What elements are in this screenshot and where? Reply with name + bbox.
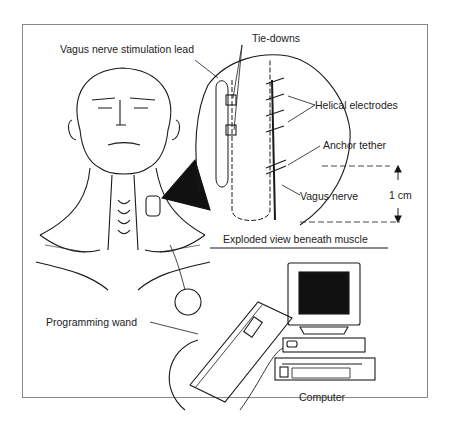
label-vagus-nerve: Vagus nerve: [300, 191, 358, 202]
computer-figure: [240, 263, 375, 410]
illustration: [0, 0, 452, 448]
inset-pointer: [162, 160, 210, 210]
label-stimulation-lead: Vagus nerve stimulation lead: [60, 44, 194, 55]
pulse-generator: [175, 289, 201, 315]
label-scale: 1 cm: [389, 190, 412, 201]
exploded-inset: [195, 45, 401, 225]
label-computer: Computer: [299, 392, 345, 403]
label-exploded-view: Exploded view beneath muscle: [223, 234, 368, 245]
label-helical-electrodes: Helical electrodes: [315, 100, 398, 111]
label-programming-wand: Programming wand: [46, 317, 137, 328]
label-tie-downs: Tie-downs: [252, 33, 300, 44]
label-anchor-tether: Anchor tether: [323, 140, 386, 151]
programming-wand-figure: [150, 302, 292, 410]
